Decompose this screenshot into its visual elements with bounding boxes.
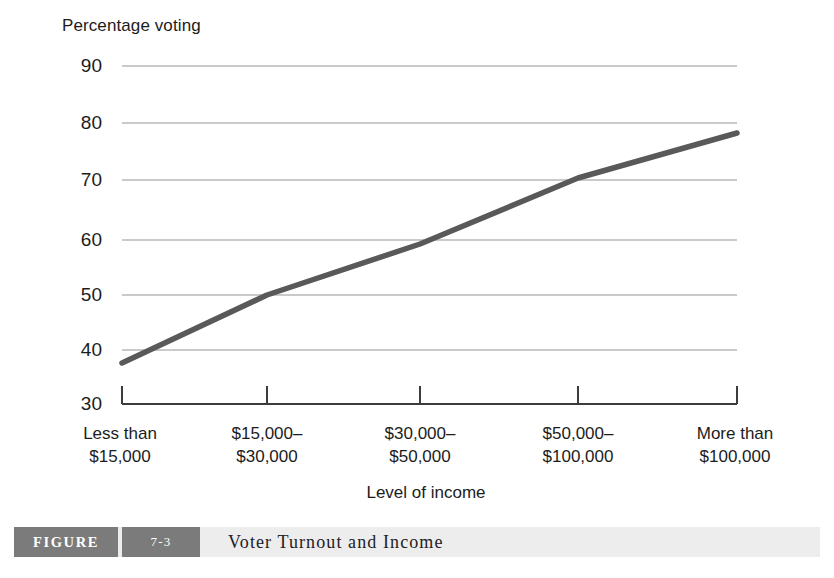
figure-caption-title: Voter Turnout and Income <box>200 527 820 557</box>
y-tick-60: 60 <box>58 229 102 251</box>
x-category-2: $30,000– $50,000 <box>345 422 495 468</box>
x-category-4-line1: More than <box>660 422 810 445</box>
y-tick-50: 50 <box>58 284 102 306</box>
figure-container: Percentage voting 90 80 70 60 50 40 30 <box>0 0 834 578</box>
x-category-0-line1: Less than <box>45 422 195 445</box>
x-axis-title: Level of income <box>366 483 485 503</box>
x-category-0: Less than $15,000 <box>45 422 195 468</box>
x-category-1-line1: $15,000– <box>192 422 342 445</box>
figure-number-badge: 7-3 <box>122 527 200 557</box>
x-category-3-line1: $50,000– <box>503 422 653 445</box>
x-category-3-line2: $100,000 <box>503 445 653 468</box>
x-category-3: $50,000– $100,000 <box>503 422 653 468</box>
x-category-2-line1: $30,000– <box>345 422 495 445</box>
y-tick-90: 90 <box>58 55 102 77</box>
gridlines <box>122 66 737 350</box>
x-axis-title-wrap: Level of income <box>0 483 834 503</box>
y-tick-70: 70 <box>58 169 102 191</box>
figure-caption-bar: FIGURE 7-3 Voter Turnout and Income <box>14 527 820 557</box>
x-category-1-line2: $30,000 <box>192 445 342 468</box>
x-category-0-line2: $15,000 <box>45 445 195 468</box>
x-category-1: $15,000– $30,000 <box>192 422 342 468</box>
y-tick-30: 30 <box>58 393 102 415</box>
x-axis <box>122 386 737 404</box>
y-tick-80: 80 <box>58 112 102 134</box>
figure-label-badge: FIGURE <box>14 527 118 557</box>
x-category-4-line2: $100,000 <box>660 445 810 468</box>
x-category-2-line2: $50,000 <box>345 445 495 468</box>
data-series-line <box>122 133 737 363</box>
y-tick-40: 40 <box>58 339 102 361</box>
x-category-4: More than $100,000 <box>660 422 810 468</box>
